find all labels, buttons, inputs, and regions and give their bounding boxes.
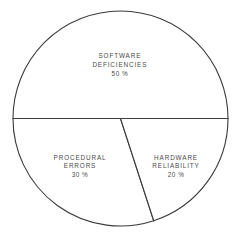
pie-label-software-deficiencies: SOFTWARE DEFICIENCIES 50 %: [92, 52, 147, 78]
pie-label-procedural-errors: PROCEDURAL ERRORS 30 %: [54, 154, 107, 180]
pie-label-procedural-errors-line2: ERRORS: [54, 162, 107, 171]
pie-label-software-deficiencies-line1: SOFTWARE: [92, 52, 147, 61]
pie-chart-canvas: [0, 0, 236, 241]
pie-value-procedural-errors: 30 %: [54, 171, 107, 180]
pie-label-software-deficiencies-line2: DEFICIENCIES: [92, 61, 147, 70]
pie-label-procedural-errors-line1: PROCEDURAL: [54, 154, 107, 163]
pie-value-hardware-reliability: 20 %: [152, 171, 199, 180]
pie-label-hardware-reliability-line1: HARDWARE: [152, 154, 199, 163]
pie-value-software-deficiencies: 50 %: [92, 70, 147, 79]
pie-chart: SOFTWARE DEFICIENCIES 50 % PROCEDURAL ER…: [0, 0, 236, 241]
pie-slices: [13, 11, 228, 226]
pie-label-hardware-reliability-line2: RELIABILITY: [152, 162, 199, 171]
pie-label-hardware-reliability: HARDWARE RELIABILITY 20 %: [152, 154, 199, 180]
